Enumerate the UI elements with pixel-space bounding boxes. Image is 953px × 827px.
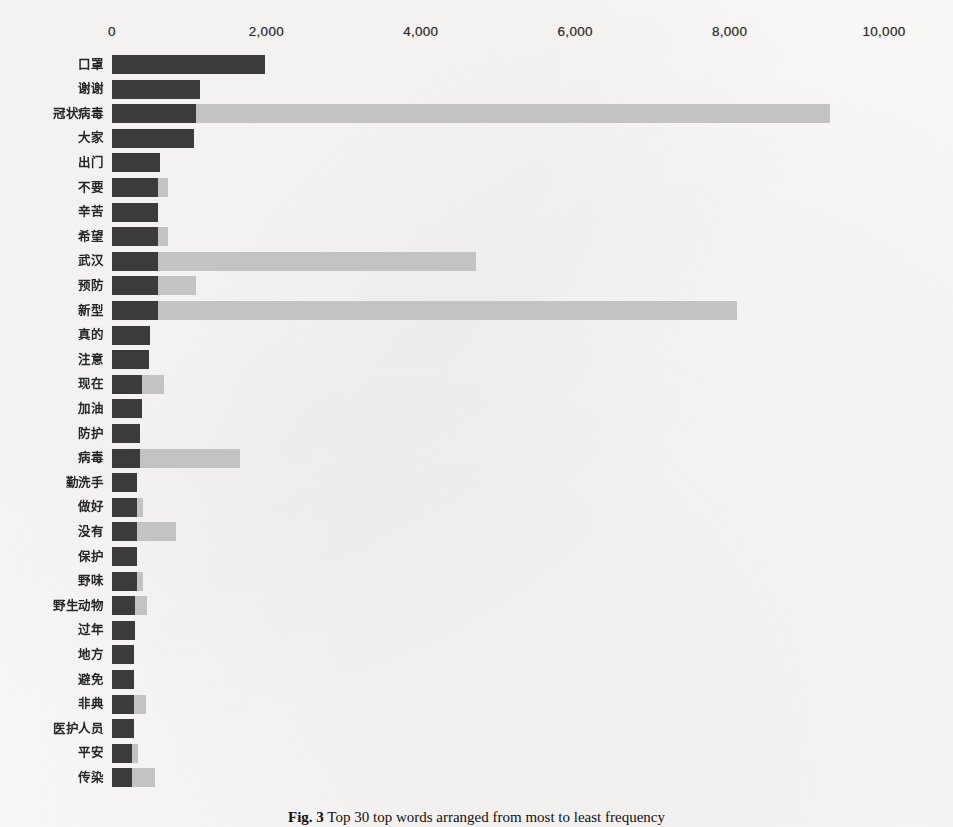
bar-row[interactable]: 希望: [0, 227, 953, 246]
bar-category-label: 武汉: [6, 255, 110, 268]
bar-row[interactable]: 野味: [0, 572, 953, 591]
bar-category-label: 冠状病毒: [6, 107, 110, 120]
bar-segment-series_1[interactable]: [112, 350, 149, 369]
bar-row[interactable]: 没有: [0, 522, 953, 541]
bar-segment-series_1[interactable]: [112, 596, 135, 615]
bar-category-label: 预防: [6, 280, 110, 293]
bar-segment-series_1[interactable]: [112, 301, 158, 320]
bar-category-label: 注意: [6, 353, 110, 366]
x-tick-label: 6,000: [558, 24, 593, 39]
bar-segment-series_1[interactable]: [112, 645, 134, 664]
bar-row[interactable]: 不要: [0, 178, 953, 197]
x-tick-label: 0: [108, 24, 116, 39]
bar-row[interactable]: 保护: [0, 547, 953, 566]
bar-category-label: 勤洗手: [6, 476, 110, 489]
bar-category-label: 保护: [6, 550, 110, 563]
bar-category-label: 大家: [6, 132, 110, 145]
bar-segment-series_1[interactable]: [112, 55, 265, 74]
bar-row[interactable]: 口罩: [0, 55, 953, 74]
bar-category-label: 不要: [6, 181, 110, 194]
bar-category-label: 医护人员: [6, 722, 110, 735]
bar-row[interactable]: 医护人员: [0, 719, 953, 738]
bar-segment-series_2[interactable]: [158, 252, 476, 271]
bar-segment-series_2[interactable]: [137, 498, 142, 517]
bar-category-label: 地方: [6, 649, 110, 662]
x-tick-label: 4,000: [403, 24, 438, 39]
bar-row[interactable]: 武汉: [0, 252, 953, 271]
bar-segment-series_1[interactable]: [112, 104, 196, 123]
bar-row[interactable]: 野生动物: [0, 596, 953, 615]
bar-row[interactable]: 传染: [0, 768, 953, 787]
bar-category-label: 没有: [6, 526, 110, 539]
bar-row[interactable]: 谢谢: [0, 80, 953, 99]
bar-segment-series_1[interactable]: [112, 153, 160, 172]
bar-segment-series_1[interactable]: [112, 375, 142, 394]
bar-category-label: 谢谢: [6, 83, 110, 96]
bar-segment-series_2[interactable]: [134, 695, 146, 714]
bar-row[interactable]: 新型: [0, 301, 953, 320]
bar-segment-series_1[interactable]: [112, 203, 158, 222]
bar-row[interactable]: 病毒: [0, 449, 953, 468]
bar-segment-series_2[interactable]: [196, 104, 830, 123]
bar-row[interactable]: 冠状病毒: [0, 104, 953, 123]
bar-segment-series_1[interactable]: [112, 768, 132, 787]
bar-category-label: 加油: [6, 403, 110, 416]
bar-segment-series_1[interactable]: [112, 449, 140, 468]
bar-segment-series_1[interactable]: [112, 695, 134, 714]
bar-segment-series_1[interactable]: [112, 80, 200, 99]
bar-row[interactable]: 地方: [0, 645, 953, 664]
bar-row[interactable]: 防护: [0, 424, 953, 443]
bar-row[interactable]: 加油: [0, 399, 953, 418]
bar-row[interactable]: 辛苦: [0, 203, 953, 222]
bar-category-label: 新型: [6, 304, 110, 317]
bar-segment-series_2[interactable]: [137, 572, 142, 591]
bar-segment-series_1[interactable]: [112, 719, 134, 738]
bar-segment-series_1[interactable]: [112, 473, 137, 492]
bar-row[interactable]: 避免: [0, 670, 953, 689]
bar-segment-series_2[interactable]: [158, 276, 196, 295]
bar-category-label: 传染: [6, 772, 110, 785]
bar-category-label: 野生动物: [6, 599, 110, 612]
bar-segment-series_1[interactable]: [112, 572, 137, 591]
bar-category-label: 真的: [6, 329, 110, 342]
bar-segment-series_1[interactable]: [112, 227, 158, 246]
bar-segment-series_2[interactable]: [158, 227, 169, 246]
bar-segment-series_1[interactable]: [112, 547, 137, 566]
bar-segment-series_2[interactable]: [142, 375, 164, 394]
bar-segment-series_2[interactable]: [158, 178, 168, 197]
bar-segment-series_1[interactable]: [112, 276, 158, 295]
bar-row[interactable]: 平安: [0, 744, 953, 763]
bar-row[interactable]: 现在: [0, 375, 953, 394]
bar-row[interactable]: 注意: [0, 350, 953, 369]
bar-row[interactable]: 非典: [0, 695, 953, 714]
bar-row[interactable]: 预防: [0, 276, 953, 295]
bar-segment-series_1[interactable]: [112, 399, 142, 418]
bar-segment-series_2[interactable]: [135, 596, 147, 615]
bar-row[interactable]: 大家: [0, 129, 953, 148]
bar-segment-series_2[interactable]: [132, 744, 138, 763]
bar-row[interactable]: 勤洗手: [0, 473, 953, 492]
bar-segment-series_1[interactable]: [112, 621, 135, 640]
bar-row[interactable]: 做好: [0, 498, 953, 517]
bar-row[interactable]: 过年: [0, 621, 953, 640]
bar-category-label: 现在: [6, 378, 110, 391]
bar-segment-series_1[interactable]: [112, 252, 158, 271]
bar-segment-series_1[interactable]: [112, 670, 134, 689]
bar-segment-series_2[interactable]: [132, 768, 155, 787]
bar-segment-series_2[interactable]: [137, 522, 176, 541]
bar-row[interactable]: 真的: [0, 326, 953, 345]
bar-row[interactable]: 出门: [0, 153, 953, 172]
bar-segment-series_1[interactable]: [112, 326, 150, 345]
bar-category-label: 防护: [6, 427, 110, 440]
bar-segment-series_1[interactable]: [112, 522, 137, 541]
bar-segment-series_1[interactable]: [112, 178, 158, 197]
bar-segment-series_1[interactable]: [112, 129, 194, 148]
bar-segment-series_1[interactable]: [112, 424, 140, 443]
bar-segment-series_2[interactable]: [158, 301, 736, 320]
bar-category-label: 病毒: [6, 452, 110, 465]
bar-segment-series_1[interactable]: [112, 744, 132, 763]
bar-segment-series_2[interactable]: [140, 449, 240, 468]
bar-segment-series_1[interactable]: [112, 498, 137, 517]
bar-category-label: 野味: [6, 575, 110, 588]
bar-category-label: 做好: [6, 501, 110, 514]
